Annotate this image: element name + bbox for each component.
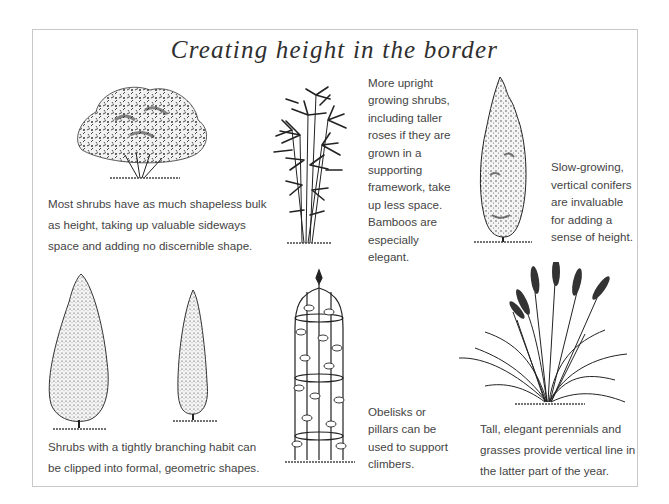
clipped-topiary-icon: [45, 272, 235, 432]
caption-bamboo: More upright growing shrubs, including t…: [368, 74, 463, 265]
caption-topiary: Shrubs with a tightly branching habit ca…: [48, 436, 268, 478]
caption-grasses: Tall, elegant perennials and grasses pro…: [480, 418, 640, 481]
bamboo-icon: [262, 75, 357, 247]
caption-obelisk: Obelisks or pillars can be used to suppo…: [368, 403, 463, 473]
ornamental-grass-icon: [455, 262, 635, 410]
rounded-shrub-icon: [70, 80, 215, 185]
caption-shapeless-shrub: Most shrubs have as much shapeless bulk …: [48, 193, 268, 256]
obelisk-climber-icon: [285, 268, 355, 468]
page-title: Creating height in the border: [0, 36, 669, 64]
conifer-icon: [470, 75, 540, 245]
caption-conifer: Slow-growing, vertical conifers are inva…: [551, 158, 639, 246]
